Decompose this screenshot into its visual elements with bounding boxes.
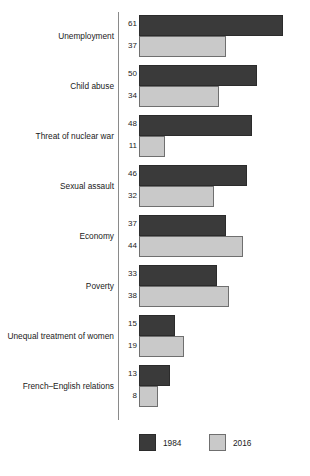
legend-label: 1984 — [163, 438, 181, 448]
bar-1984 — [139, 215, 226, 236]
category-label: Unequal treatment of women — [0, 331, 114, 341]
legend-item-2016: 2016 — [209, 434, 251, 451]
value-label-1984: 33 — [120, 269, 137, 279]
bar-2016 — [139, 186, 214, 207]
value-label-1984: 37 — [120, 219, 137, 229]
value-label-1984: 48 — [120, 119, 137, 129]
category-label: Unemployment — [0, 31, 114, 41]
bar-2016 — [139, 36, 226, 57]
bar-2016 — [139, 236, 243, 257]
bar-1984 — [139, 265, 217, 286]
value-label-2016: 32 — [120, 191, 137, 201]
legend-label: 2016 — [233, 438, 251, 448]
value-label-2016: 38 — [120, 291, 137, 301]
bar-1984 — [139, 315, 175, 336]
value-label-2016: 34 — [120, 91, 137, 101]
bar-group: Economy 37 44 — [0, 214, 310, 258]
bar-2016 — [139, 86, 219, 107]
category-label: Economy — [0, 231, 114, 241]
bar-2016 — [139, 136, 165, 157]
bar-2016 — [139, 286, 229, 307]
bar-group: Child abuse 50 34 — [0, 64, 310, 108]
category-label: Sexual assault — [0, 181, 114, 191]
bar-1984 — [139, 165, 247, 186]
category-label: Child abuse — [0, 81, 114, 91]
bar-1984 — [139, 115, 252, 136]
bar-chart: Unemployment 61 37 Child abuse 50 34 Thr… — [0, 0, 310, 476]
legend-item-1984: 1984 — [139, 434, 181, 451]
bar-group: French–English relations 13 8 — [0, 364, 310, 408]
value-label-2016: 11 — [120, 141, 137, 151]
legend-swatch-icon — [209, 434, 226, 451]
value-label-2016: 19 — [120, 341, 137, 351]
bar-2016 — [139, 386, 158, 407]
bar-group: Unemployment 61 37 — [0, 14, 310, 58]
value-label-1984: 50 — [120, 69, 137, 79]
bar-group: Poverty 33 38 — [0, 264, 310, 308]
bar-group: Sexual assault 46 32 — [0, 164, 310, 208]
value-label-2016: 37 — [120, 41, 137, 51]
bar-2016 — [139, 336, 184, 357]
value-label-1984: 46 — [120, 169, 137, 179]
bar-1984 — [139, 65, 257, 86]
legend-swatch-icon — [139, 434, 156, 451]
category-label: Threat of nuclear war — [0, 131, 114, 141]
value-label-2016: 8 — [120, 391, 137, 401]
category-label: French–English relations — [0, 381, 114, 391]
category-label: Poverty — [0, 281, 114, 291]
chart-legend: 1984 2016 — [0, 434, 310, 456]
value-label-1984: 15 — [120, 319, 137, 329]
value-label-1984: 13 — [120, 369, 137, 379]
bar-group: Threat of nuclear war 48 11 — [0, 114, 310, 158]
bar-1984 — [139, 365, 170, 386]
value-label-1984: 61 — [120, 19, 137, 29]
bar-group: Unequal treatment of women 15 19 — [0, 314, 310, 358]
value-label-2016: 44 — [120, 241, 137, 251]
bar-1984 — [139, 15, 283, 36]
